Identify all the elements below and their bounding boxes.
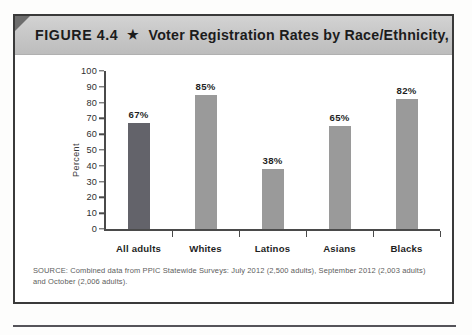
chart-canvas: Percent 1009080706050403020100 67%85%38%…: [15, 55, 452, 265]
star-icon: ★: [127, 27, 139, 42]
y-tick-label: 80: [86, 98, 97, 108]
x-tick-mark: [239, 231, 240, 237]
bar-slot: 65%: [306, 71, 373, 229]
x-category-label: Asians: [323, 243, 356, 254]
y-tick-label: 100: [81, 66, 97, 76]
bar[interactable]: [396, 99, 418, 229]
figure-container: FIGURE 4.4 ★ Voter Registration Rates by…: [13, 14, 454, 304]
bar[interactable]: [195, 95, 217, 229]
y-tick-label: 0: [92, 224, 97, 234]
x-tick-mark: [172, 231, 173, 237]
bar-series: 67%85%38%65%82%: [105, 71, 440, 229]
y-tick-label: 60: [86, 129, 97, 139]
y-tick-label: 50: [86, 145, 97, 155]
figure-number: FIGURE 4.4: [35, 27, 118, 43]
bar[interactable]: [128, 123, 150, 229]
x-category-label: Whites: [189, 243, 222, 254]
x-axis-line: [104, 229, 440, 231]
y-tick-mark: [99, 86, 104, 87]
x-tick-mark: [306, 231, 307, 237]
y-tick-mark: [99, 70, 104, 71]
bar[interactable]: [329, 126, 351, 229]
y-tick-label: 40: [86, 161, 97, 171]
y-tick-mark: [99, 149, 104, 150]
x-category-label: Blacks: [390, 243, 422, 254]
y-axis-tick-labels: 1009080706050403020100: [73, 71, 97, 229]
bar-value-label: 65%: [330, 112, 350, 123]
x-tick-mark: [440, 231, 441, 237]
bar-slot: 38%: [239, 71, 306, 229]
y-tick-label: 90: [86, 82, 97, 92]
x-tick-mark: [373, 231, 374, 237]
y-tick-mark: [99, 133, 104, 134]
bar-value-label: 38%: [263, 155, 283, 166]
bar-slot: 85%: [172, 71, 239, 229]
source-note: SOURCE: Combined data from PPIC Statewid…: [33, 265, 436, 288]
bar-value-label: 85%: [196, 81, 216, 92]
y-tick-mark: [99, 212, 104, 213]
bar-slot: 67%: [105, 71, 172, 229]
y-tick-label: 20: [86, 192, 97, 202]
figure-header-band: FIGURE 4.4 ★ Voter Registration Rates by…: [15, 16, 452, 55]
y-tick-mark: [99, 181, 104, 182]
figure-header-text: FIGURE 4.4 ★ Voter Registration Rates by…: [15, 27, 452, 43]
x-category-label: All adults: [116, 243, 161, 254]
corner-fold-icon: [15, 16, 30, 31]
y-tick-mark: [99, 228, 104, 229]
y-tick-mark: [99, 197, 104, 198]
y-tick-label: 70: [86, 113, 97, 123]
y-tick-mark: [99, 118, 104, 119]
y-tick-mark: [99, 102, 104, 103]
y-tick-label: 10: [86, 208, 97, 218]
bar-value-label: 67%: [129, 109, 149, 120]
figure-title: Voter Registration Rates by Race/Ethnici…: [149, 27, 452, 43]
bar[interactable]: [262, 169, 284, 229]
bar-slot: 82%: [373, 71, 440, 229]
y-tick-mark: [99, 165, 104, 166]
y-tick-label: 30: [86, 177, 97, 187]
page-divider-rule: [13, 325, 456, 327]
chart-plot-area: Percent 1009080706050403020100 67%85%38%…: [15, 55, 452, 265]
bar-value-label: 82%: [397, 85, 417, 96]
x-category-label: Latinos: [255, 243, 291, 254]
